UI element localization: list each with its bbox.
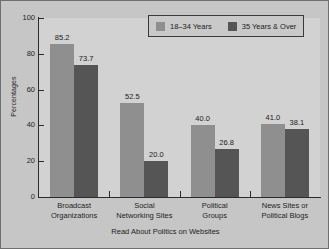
bar-chart-figure: Percentages 020406080100 85.252.540.041.… (0, 0, 329, 249)
bar-value-label: 52.5 (114, 93, 150, 101)
bar-value-label: 20.0 (138, 151, 174, 159)
y-tick-mark (39, 90, 44, 91)
bar-value-label: 38.1 (279, 119, 315, 127)
legend-label: 35 Years & Over (242, 22, 297, 31)
x-category-label: PoliticalGroups (180, 201, 250, 221)
legend: 18–34 Years35 Years & Over (148, 15, 304, 37)
x-category-label: BroadcastOrganizations (39, 201, 109, 221)
x-axis-title: Read About Politics on Websites (1, 227, 329, 236)
bar-value-label: 85.2 (44, 34, 80, 42)
x-category-label-line: Networking Sites (109, 211, 179, 221)
y-tick-label: 60 (7, 86, 35, 94)
x-category-label-line: Political (180, 201, 250, 211)
y-tick-mark (39, 18, 44, 19)
x-tick-mark (250, 191, 251, 198)
y-tick-label: 0 (7, 193, 35, 201)
x-category-label-line: Political Blogs (250, 211, 320, 221)
y-tick-label: 40 (7, 121, 35, 129)
bar (74, 65, 98, 197)
y-tick-label: 20 (7, 157, 35, 165)
bar (261, 124, 285, 197)
legend-item: 18–34 Years (156, 22, 212, 31)
bar (215, 149, 239, 197)
bar (50, 44, 74, 197)
y-tick-mark (39, 161, 44, 162)
x-category-label-line: Groups (180, 211, 250, 221)
bar-value-label: 73.7 (68, 55, 104, 63)
y-tick-mark (39, 125, 44, 126)
y-tick-label: 80 (7, 50, 35, 58)
bar-value-label: 40.0 (185, 115, 221, 123)
x-tick-mark (109, 191, 110, 198)
x-category-label-line: Broadcast (39, 201, 109, 211)
x-category-label-line: Organizations (39, 211, 109, 221)
legend-label: 18–34 Years (170, 22, 212, 31)
legend-item: 35 Years & Over (228, 22, 297, 31)
x-tick-mark (180, 191, 181, 198)
legend-swatch-icon (228, 22, 237, 31)
bar (285, 129, 309, 197)
x-category-label: SocialNetworking Sites (109, 201, 179, 221)
bar (144, 161, 168, 197)
x-category-label: News Sites orPolitical Blogs (250, 201, 320, 221)
legend-swatch-icon (156, 22, 165, 31)
y-tick-label: 100 (7, 14, 35, 22)
bar (191, 125, 215, 197)
y-tick-mark (39, 54, 44, 55)
y-axis-line (38, 17, 39, 198)
bar-value-label: 26.8 (209, 139, 245, 147)
y-tick-mark (39, 197, 44, 198)
x-category-label-line: Social (109, 201, 179, 211)
bar (120, 103, 144, 197)
x-category-label-line: News Sites or (250, 201, 320, 211)
